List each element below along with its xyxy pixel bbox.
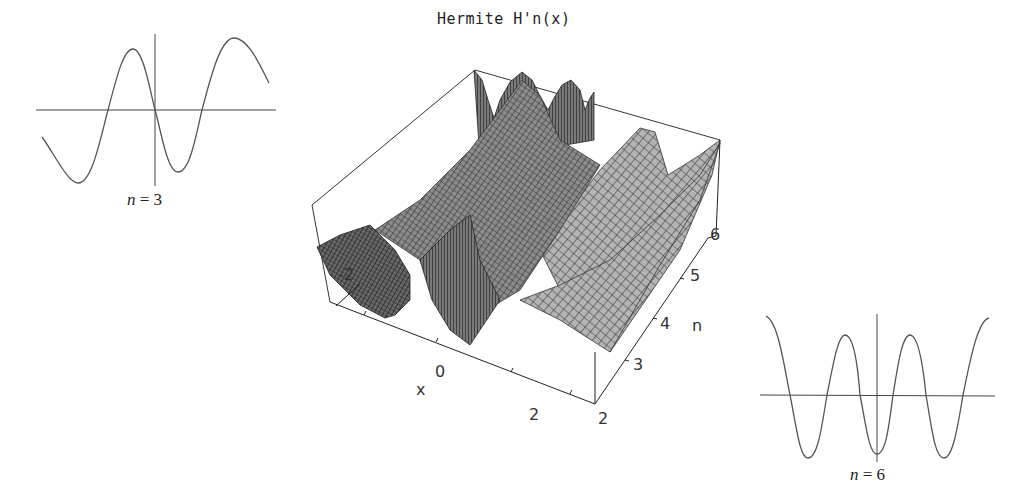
n-tick-5: 5 [690,266,700,285]
x-tick-2: 2 [529,405,539,424]
surface-graphic [0,0,1029,504]
x-axis-label: x [416,380,425,399]
n-tick-3: 3 [633,355,643,374]
x-tick-minus2: -2 [338,265,354,284]
x-tick-0: 0 [435,362,445,381]
n-tick-6: 6 [710,225,720,244]
n-tick-4: 4 [660,314,670,333]
n-axis-label: n [692,316,702,335]
n-tick-2: 2 [598,409,608,428]
